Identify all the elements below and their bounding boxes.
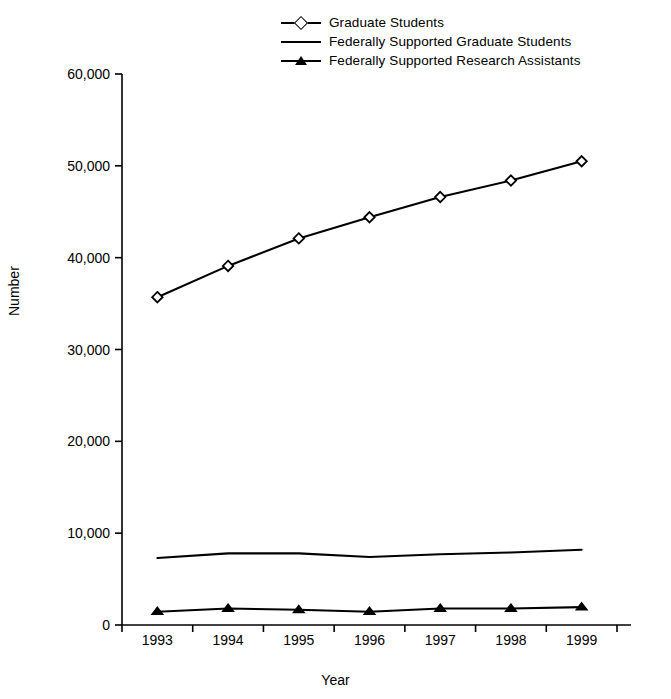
chart-figure: Graduate Students Federally Supported Gr…	[0, 0, 671, 699]
data-point-open-diamond	[364, 212, 374, 222]
data-point-open-diamond	[506, 175, 516, 185]
series-line-0	[157, 161, 581, 297]
data-point-open-diamond	[152, 292, 162, 302]
data-point-open-diamond	[576, 156, 586, 166]
data-point-open-diamond	[435, 192, 445, 202]
data-point-open-diamond	[223, 261, 233, 271]
series-line-1	[157, 550, 581, 558]
tick-marks	[115, 74, 617, 632]
plot-area	[0, 0, 671, 699]
axis-lines	[122, 74, 631, 625]
data-series-layer	[152, 156, 587, 614]
data-point-open-diamond	[294, 233, 304, 243]
